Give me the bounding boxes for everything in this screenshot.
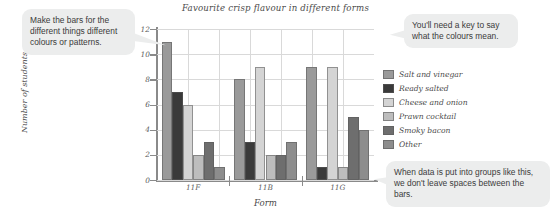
- y-axis-tick-label: 4: [124, 125, 150, 134]
- legend-item: Smoky bacon: [383, 123, 523, 137]
- legend-swatch: [383, 112, 394, 121]
- x-axis-category-label: 11F: [157, 183, 229, 192]
- legend-swatch: [383, 140, 394, 149]
- y-axis-tick-label: 6: [124, 100, 150, 109]
- bar: [317, 167, 327, 180]
- callout-key: You'll need a key to say what the colour…: [404, 14, 518, 48]
- y-axis-tick: [150, 155, 157, 156]
- x-axis-group-separator: [302, 176, 303, 186]
- bar: [193, 155, 203, 180]
- bar: [245, 142, 255, 180]
- callout-bars: Make the bars for the different things d…: [22, 9, 135, 55]
- y-axis-tick: [150, 105, 157, 106]
- bar: [234, 79, 244, 180]
- bar: [306, 67, 316, 180]
- legend-label: Other: [399, 140, 421, 149]
- legend-item: Salt and vinegar: [383, 67, 523, 81]
- legend-label: Smoky bacon: [399, 126, 450, 135]
- bar: [214, 167, 224, 180]
- gridline-vertical: [343, 29, 344, 180]
- plot-area: [157, 29, 374, 180]
- legend-label: Cheese and onion: [399, 98, 468, 107]
- bar: [286, 142, 296, 180]
- y-axis-tick: [150, 54, 157, 55]
- bar: [255, 67, 265, 180]
- x-axis-title: Form: [157, 198, 374, 208]
- callout-key-tail: [390, 29, 409, 40]
- y-axis-tick-label: 0: [124, 176, 150, 185]
- legend-item: Prawn cocktail: [383, 109, 523, 123]
- legend-item: Other: [383, 137, 523, 151]
- bar: [359, 130, 369, 180]
- bar: [183, 105, 193, 181]
- legend-label: Salt and vinegar: [399, 70, 462, 79]
- y-axis-tick-label: 8: [124, 75, 150, 84]
- legend-swatch: [383, 126, 394, 135]
- gridline-horizontal: [157, 79, 374, 80]
- legend-swatch: [383, 70, 394, 79]
- legend-item: Ready salted: [383, 81, 523, 95]
- y-axis-tick: [150, 79, 157, 80]
- bar: [204, 142, 214, 180]
- y-axis-tick: [150, 130, 157, 131]
- x-axis-category-label: 11G: [302, 183, 374, 192]
- y-axis-tick: [150, 180, 157, 181]
- bar: [266, 155, 276, 180]
- callout-groups: When data is put into groups like this, …: [386, 161, 550, 207]
- x-axis-group-separator: [229, 176, 230, 186]
- gridline-horizontal: [157, 180, 374, 181]
- bar: [338, 167, 348, 180]
- legend: Salt and vinegarReady saltedCheese and o…: [383, 67, 523, 151]
- bar: [327, 67, 337, 180]
- legend-swatch: [383, 98, 394, 107]
- legend-swatch: [383, 84, 394, 93]
- gridline-vertical: [219, 29, 220, 180]
- bar: [348, 117, 358, 180]
- gridline-horizontal: [157, 54, 374, 55]
- x-axis-category-label: 11B: [229, 183, 301, 192]
- gridline-horizontal: [157, 29, 374, 30]
- callout-groups-tail: [374, 175, 391, 186]
- legend-item: Cheese and onion: [383, 95, 523, 109]
- legend-label: Ready salted: [399, 84, 449, 93]
- legend-label: Prawn cocktail: [399, 112, 456, 121]
- bar: [276, 155, 286, 180]
- y-axis-tick: [150, 29, 157, 30]
- bar: [172, 92, 182, 180]
- y-axis-tick-label: 2: [124, 150, 150, 159]
- bar: [162, 42, 172, 180]
